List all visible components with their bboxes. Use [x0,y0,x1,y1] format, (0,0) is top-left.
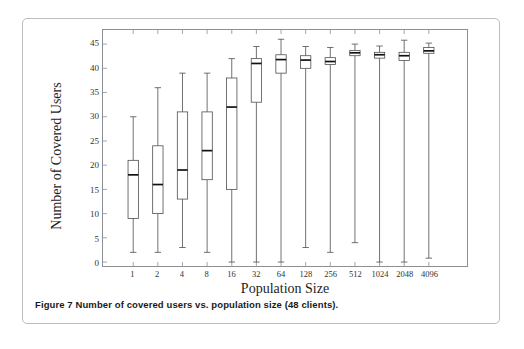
y-axis-tick-label: 10 [90,209,99,219]
x-axis-tick-label: 32 [252,269,261,279]
y-axis-tick-label: 0 [95,258,100,268]
y-axis-tick-label: 20 [90,160,99,170]
box-plot-canvas [103,30,467,266]
x-axis-tick-label: 8 [205,269,209,279]
x-axis-tick-label: 2 [155,269,159,279]
x-axis-tick-label: 256 [324,269,337,279]
y-axis-tick-label: 25 [90,136,99,146]
x-axis-title: Population Size [102,281,468,297]
y-axis-tick-label: 5 [95,234,100,244]
x-axis-tick-label: 16 [227,269,236,279]
figure-card: 051015202530354045 Number of Covered Use… [22,18,500,324]
y-axis-tick-label: 35 [90,87,99,97]
x-axis-tick-label: 4 [180,269,184,279]
x-axis-tick-label: 512 [349,269,362,279]
y-axis-tick-label: 45 [90,38,99,48]
x-axis-tick-label: 2048 [396,269,413,279]
y-axis-tick-labels: 051015202530354045 [75,29,99,267]
x-axis-tick-label: 4096 [421,269,438,279]
plot-area [102,29,468,267]
x-axis-tick-label: 1024 [372,269,389,279]
y-axis-tick-label: 40 [90,63,99,73]
x-axis-tick-label: 64 [277,269,286,279]
x-axis-tick-label: 1 [130,269,134,279]
y-axis-tick-label: 15 [90,185,99,195]
y-axis-tick-label: 30 [90,111,99,121]
figure-caption: Figure 7 Number of covered users vs. pop… [35,299,485,310]
y-axis-title: Number of Covered Users [49,56,65,256]
x-axis-tick-label: 128 [299,269,312,279]
